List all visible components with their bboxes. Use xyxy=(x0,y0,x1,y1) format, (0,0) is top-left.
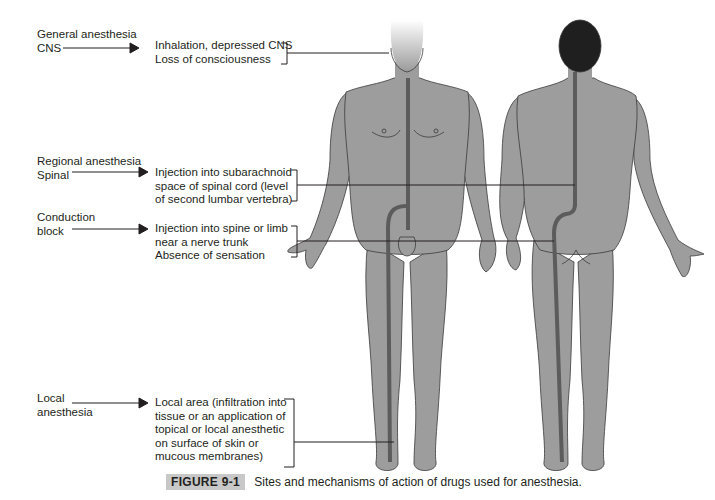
caption-text: Sites and mechanisms of action of drugs … xyxy=(254,475,582,489)
arrow-local xyxy=(72,398,148,408)
hair xyxy=(559,20,601,72)
front-body-figure xyxy=(288,20,496,471)
figure-number: FIGURE 9-1 xyxy=(166,474,245,490)
anesthesia-diagram xyxy=(0,0,715,500)
figure-caption: FIGURE 9-1 Sites and mechanisms of actio… xyxy=(166,474,582,490)
arrow-general xyxy=(63,43,139,53)
arrow-spinal xyxy=(72,167,148,177)
back-body-figure xyxy=(500,20,704,471)
bracket-general xyxy=(281,43,389,64)
arrow-conduction xyxy=(72,224,148,234)
